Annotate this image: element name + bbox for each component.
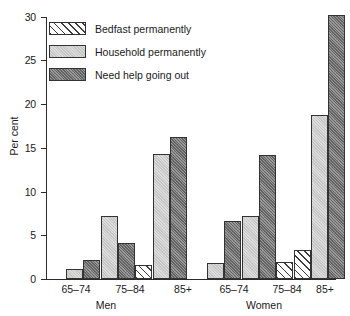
legend-item-household: Household permanently [49,42,206,61]
bar-women-85-needhelp [328,15,345,279]
y-tick-label-20: 20 [2,98,36,110]
panel-label-women: Women [233,299,295,311]
legend-label-household: Household permanently [95,46,206,58]
legend-item-bedfast: Bedfast permanently [49,19,206,38]
x-group-label-women-85: 85+ [294,283,350,295]
legend: Bedfast permanently Household permanentl… [49,19,206,88]
y-tick-label-0: 0 [2,273,36,285]
legend-swatch-household-icon [49,45,86,58]
bar-women-65-74-needhelp [224,221,241,279]
bar-chart: Per cent 30 25 20 15 10 5 0 [0,0,350,316]
y-tick-label-10: 10 [2,186,36,198]
bar-women-75-84-household [242,216,259,279]
bar-women-85-bedfast [294,250,311,279]
bar-women-85-household [311,115,328,279]
bar-men-75-84-needhelp [118,243,135,279]
legend-swatch-needhelp-icon [49,68,86,81]
legend-item-needhelp: Need help going out [49,65,206,84]
x-group-label-men-65-74: 65–74 [45,283,107,295]
bar-men-65-74-needhelp [83,260,100,279]
y-tick-label-15: 15 [2,142,36,154]
y-tick-label-30: 30 [2,11,36,23]
y-tick-label-25: 25 [2,54,36,66]
bar-men-75-84-household [101,216,118,279]
bar-women-65-74-household [207,263,224,279]
legend-label-bedfast: Bedfast permanently [95,23,191,35]
panel-label-men: Men [75,299,137,311]
bar-women-75-84-bedfast [276,262,293,279]
y-tick-label-5: 5 [2,229,36,241]
legend-swatch-bedfast-icon [49,22,86,35]
x-axis-line [46,279,336,280]
bar-men-65-74-household [66,269,83,279]
bar-men-75-84-bedfast [135,265,152,279]
legend-label-needhelp: Need help going out [95,69,189,81]
bar-men-85-household [153,154,170,279]
bar-women-75-84-needhelp [259,155,276,279]
bar-men-85-needhelp [170,137,187,279]
